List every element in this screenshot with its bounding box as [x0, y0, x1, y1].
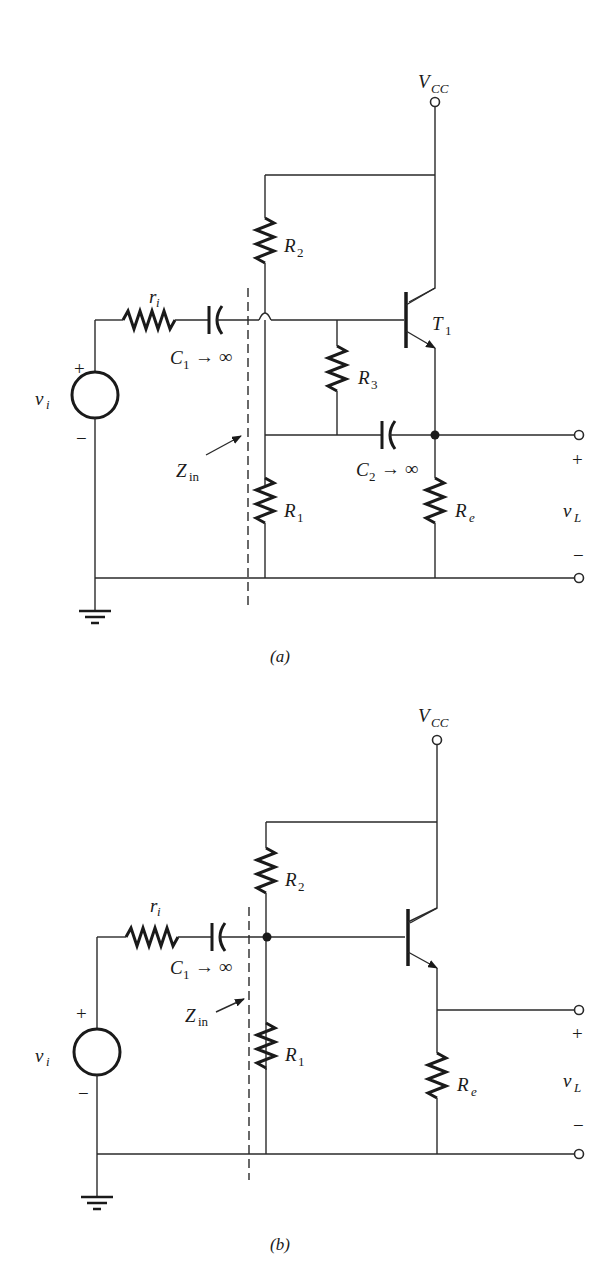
- svg-text:v: v: [563, 1070, 572, 1091]
- label-re-b: R e: [456, 1074, 477, 1099]
- svg-text:V: V: [418, 71, 432, 92]
- svg-text:+: +: [572, 1023, 583, 1044]
- voltage-source-vi-b: [74, 1029, 120, 1075]
- svg-text:→ ∞: → ∞: [195, 346, 232, 367]
- svg-text:i: i: [46, 1054, 50, 1069]
- svg-text:C: C: [170, 957, 183, 978]
- junction-base-b: [263, 933, 272, 942]
- wire-crossover-a: [259, 313, 271, 320]
- svg-text:i: i: [156, 295, 160, 310]
- svg-text:R: R: [283, 235, 296, 256]
- svg-text:+: +: [74, 358, 85, 379]
- svg-text:R: R: [456, 1074, 469, 1095]
- collector-wire-b: [266, 745, 437, 924]
- svg-text:1: 1: [297, 510, 304, 525]
- svg-text:1: 1: [183, 967, 190, 982]
- circuit-a: V CC R 2 r i C 1: [35, 71, 584, 666]
- svg-text:v: v: [35, 1045, 44, 1066]
- svg-text:−: −: [573, 1115, 584, 1136]
- transistor-b: [408, 908, 437, 968]
- zin-arrow-b: [216, 999, 244, 1012]
- svg-text:3: 3: [371, 377, 378, 392]
- zin-arrow-a: [206, 436, 241, 455]
- caption-a: (a): [270, 647, 290, 666]
- resistor-r2-a: [256, 218, 274, 263]
- svg-text:i: i: [46, 397, 50, 412]
- label-vi-a: + − v i: [35, 358, 87, 449]
- svg-text:1: 1: [183, 357, 190, 372]
- label-vi-b: + − v i: [35, 1003, 89, 1104]
- svg-text:in: in: [198, 1014, 209, 1029]
- resistor-r3-a: [328, 346, 346, 391]
- svg-text:R: R: [454, 500, 467, 521]
- svg-text:v: v: [35, 388, 44, 409]
- svg-text:2: 2: [298, 879, 305, 894]
- svg-text:−: −: [76, 428, 87, 449]
- label-c1-b: C 1 → ∞: [170, 956, 232, 982]
- output-voltage-label-a: + v L −: [563, 449, 584, 566]
- label-r3-a: R 3: [357, 367, 378, 392]
- svg-text:Z: Z: [176, 460, 187, 481]
- svg-text:R: R: [284, 869, 297, 890]
- label-r2-b: R 2: [284, 869, 305, 894]
- svg-text:T: T: [432, 313, 444, 334]
- resistor-ri-a: [123, 311, 175, 329]
- label-zin-a: Z in: [176, 460, 200, 484]
- label-r2-a: R 2: [283, 235, 304, 260]
- circuit-b: V CC R 2 r i C 1 → ∞: [35, 705, 584, 1254]
- transistor-t1-a: T 1: [406, 288, 452, 348]
- label-r1-b: R 1: [284, 1044, 305, 1069]
- resistor-ri-b: [126, 928, 178, 946]
- svg-text:2: 2: [369, 469, 376, 484]
- caption-b: (b): [270, 1235, 290, 1254]
- svg-text:1: 1: [298, 1054, 305, 1069]
- svg-text:−: −: [573, 545, 584, 566]
- svg-text:→ ∞: → ∞: [381, 458, 418, 479]
- svg-text:e: e: [469, 510, 475, 525]
- vcc-terminal-b: V CC: [418, 705, 449, 745]
- label-ri-a: r i: [149, 286, 160, 310]
- svg-text:1: 1: [445, 323, 452, 338]
- svg-text:CC: CC: [431, 715, 449, 730]
- svg-text:→ ∞: → ∞: [195, 956, 232, 977]
- svg-text:CC: CC: [431, 81, 449, 96]
- label-r1-a: R 1: [283, 500, 304, 525]
- svg-text:R: R: [283, 500, 296, 521]
- figure-canvas: V CC R 2 r i C 1: [0, 0, 590, 1269]
- label-ri-b: r i: [150, 895, 161, 919]
- svg-text:−: −: [78, 1083, 89, 1104]
- ground-icon-b: [81, 1197, 113, 1209]
- output-terminal-minus-b: [575, 1150, 584, 1159]
- svg-text:v: v: [563, 500, 572, 521]
- svg-text:i: i: [157, 904, 161, 919]
- collector-wire-a: [265, 107, 435, 303]
- svg-text:C: C: [356, 459, 369, 480]
- junction-emitter-a: [431, 431, 440, 440]
- svg-text:+: +: [572, 449, 583, 470]
- label-c2-a: C 2 → ∞: [356, 458, 418, 484]
- svg-text:R: R: [357, 367, 370, 388]
- svg-text:V: V: [418, 705, 432, 726]
- label-zin-b: Z in: [185, 1005, 209, 1029]
- svg-text:Z: Z: [185, 1005, 196, 1026]
- svg-text:e: e: [471, 1084, 477, 1099]
- svg-text:2: 2: [297, 245, 304, 260]
- output-voltage-label-b: + v L −: [563, 1023, 584, 1136]
- resistor-r2-b: [257, 848, 275, 893]
- svg-text:R: R: [284, 1044, 297, 1065]
- output-terminal-plus-b: [575, 1006, 584, 1015]
- label-c1-a: C 1 → ∞: [170, 346, 232, 372]
- output-terminal-plus-a: [575, 431, 584, 440]
- vcc-terminal-a: V CC: [418, 71, 449, 107]
- svg-text:C: C: [170, 347, 183, 368]
- resistor-re-a: [426, 478, 444, 523]
- svg-text:+: +: [76, 1003, 87, 1024]
- ground-icon-a: [79, 611, 111, 623]
- resistor-re-b: [428, 1053, 446, 1098]
- svg-text:L: L: [573, 1080, 581, 1095]
- svg-text:in: in: [189, 469, 200, 484]
- label-re-a: R e: [454, 500, 475, 525]
- svg-text:L: L: [573, 510, 581, 525]
- output-terminal-minus-a: [575, 574, 584, 583]
